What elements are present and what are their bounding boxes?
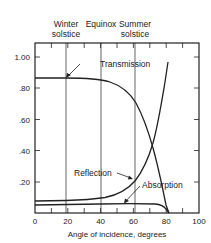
winter-label-2: solstice: [52, 29, 81, 39]
ytick-0.20: .20: [19, 178, 31, 187]
summer-label-2: solstice: [121, 29, 150, 39]
absorption-label: Absorption: [142, 180, 183, 190]
reflection-arrowhead: [128, 176, 133, 180]
xtick-60: 60: [129, 217, 138, 226]
xtick-40: 40: [96, 217, 105, 226]
ytick-0.40: .40: [19, 147, 31, 156]
summer-label-1: Summer: [119, 19, 151, 29]
xtick-100: 100: [192, 217, 206, 226]
winter-label-1: Winter: [54, 19, 79, 29]
chart: Winter solstice Equinox Summer solstice …: [0, 0, 211, 243]
absorption-arrowhead: [124, 199, 129, 204]
transmission-curve: [35, 78, 169, 213]
ytick-1.00: 1.00: [14, 53, 30, 62]
ytick-0.60: .60: [19, 116, 31, 125]
absorption-curve: [35, 204, 169, 213]
reflection-label: Reflection: [74, 168, 112, 178]
y-ticks: [35, 57, 199, 182]
x-axis-label: Angle of incidence, degrees: [68, 230, 167, 239]
equinox-label: Equinox: [86, 19, 117, 29]
ytick-0.80: .80: [19, 84, 31, 93]
transmission-label: Transmission: [100, 59, 150, 69]
xtick-20: 20: [63, 217, 72, 226]
xtick-0: 0: [33, 217, 38, 226]
xtick-80: 80: [162, 217, 171, 226]
